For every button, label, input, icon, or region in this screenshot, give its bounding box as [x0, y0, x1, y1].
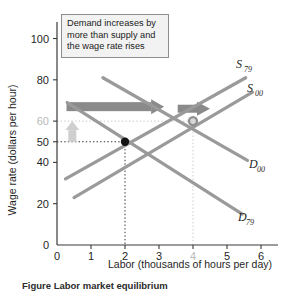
x-tick-label: 1: [88, 250, 94, 262]
curve-label-subscript: 79: [246, 218, 254, 227]
equilibrium-1979: [121, 138, 129, 146]
curve-label-subscript: 79: [244, 65, 252, 74]
callout-line: the wage rate rises: [67, 41, 164, 53]
callout-box: Demand increases by more than supply and…: [61, 14, 169, 58]
y-tick-label: 50: [37, 136, 49, 148]
curve-D79: [67, 103, 242, 214]
curve-label-subscript: 00: [255, 89, 263, 98]
callout-line: more than supply and: [67, 30, 164, 42]
y-axis-title: Wage rate (dollars per hour): [6, 85, 18, 216]
y-tick-label: 100: [31, 33, 49, 45]
y-tick-label: 60: [37, 115, 49, 127]
curve-label-D79: D79: [237, 210, 254, 227]
y-tick-label: 0: [43, 239, 49, 251]
curve-label-S79: S79: [236, 57, 252, 74]
tick-labels-group: 012345602040506080100: [31, 33, 264, 262]
curve-label-text: S: [236, 57, 242, 71]
curve-label-text: S: [247, 81, 253, 95]
equilibrium-2000: [189, 117, 197, 125]
curve-S79: [66, 78, 246, 179]
curves-group: [66, 78, 253, 214]
callout-line: Demand increases by: [67, 18, 164, 30]
wage-rise-arrow: [65, 121, 79, 142]
figure-caption: Figure Labor market equilibrium: [22, 280, 282, 291]
x-axis-title: Labor (thousands of hours per day): [108, 258, 272, 270]
x-tick-label: 0: [54, 250, 60, 262]
curve-label-subscript: 00: [257, 165, 265, 174]
y-tick-label: 40: [37, 156, 49, 168]
curve-label-D00: D00: [248, 157, 265, 174]
y-tick-label: 80: [37, 74, 49, 86]
y-tick-label: 20: [37, 198, 49, 210]
